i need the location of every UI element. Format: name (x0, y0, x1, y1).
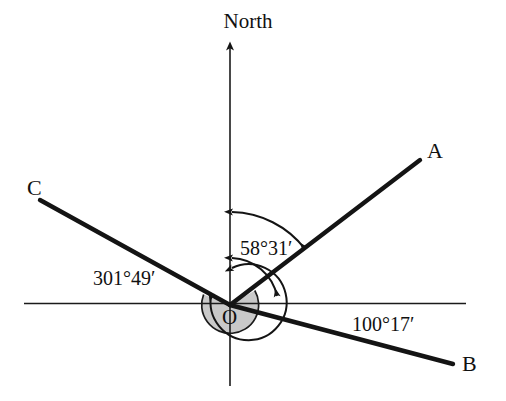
bearing-diagram-canvas: North A B C O 58°31′ 100°17′ 301°49′ (0, 0, 506, 401)
line-oa (230, 160, 420, 305)
angle-label-ob: 100°17′ (352, 313, 414, 335)
origin-label-o: O (222, 305, 237, 329)
line-ob (230, 305, 453, 364)
point-label-c: C (27, 175, 42, 200)
point-label-b: B (462, 351, 477, 376)
bearing-diagram: North A B C O 58°31′ 100°17′ 301°49′ (0, 0, 506, 401)
angle-label-oa: 58°31′ (240, 237, 292, 259)
angle-label-oc: 301°49′ (93, 267, 155, 289)
point-label-a: A (427, 138, 443, 163)
north-label: North (224, 9, 273, 33)
line-oc (40, 200, 230, 305)
